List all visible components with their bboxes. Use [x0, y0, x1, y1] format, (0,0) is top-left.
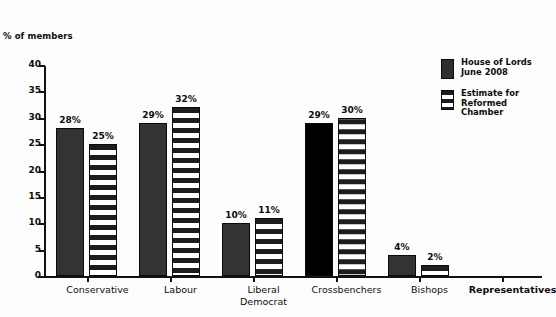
legend-item[interactable]: House of Lords June 2008 — [441, 58, 542, 82]
x-axis-tick — [87, 276, 89, 282]
y-axis-tick-label: 35 — [15, 85, 41, 95]
y-axis-tick-label: 10 — [15, 217, 41, 227]
bar-value-label: 10% — [225, 210, 247, 220]
x-axis-category-label-line: Democrat — [240, 296, 287, 308]
bar — [139, 123, 167, 276]
bar-value-label: 2% — [427, 252, 442, 262]
x-axis-category-label: Conservative — [66, 284, 128, 296]
x-axis-category-label: Representatives — [469, 284, 556, 296]
bar — [56, 128, 84, 276]
y-axis-tick-label: 0 — [15, 270, 41, 280]
bar-value-label: 30% — [341, 105, 363, 115]
y-axis-tick-label: 25 — [15, 138, 41, 148]
bar-value-label: 28% — [59, 115, 81, 125]
x-axis-tick — [419, 276, 421, 282]
x-axis-category-label-line: Crossbenchers — [312, 284, 382, 296]
bar-value-label: 29% — [308, 110, 330, 120]
bar-value-label: 11% — [258, 205, 280, 215]
x-axis-category-label-line: Conservative — [66, 284, 128, 296]
bar — [255, 218, 283, 276]
bar-value-label: 25% — [92, 131, 114, 141]
legend-item-label: House of Lords June 2008 — [461, 58, 542, 77]
bar — [172, 107, 200, 276]
y-axis-title: % of members — [3, 31, 73, 41]
bar-value-label: 29% — [142, 110, 164, 120]
bar — [338, 118, 366, 276]
bar — [222, 223, 250, 276]
x-axis-category-label-line: Liberal — [240, 284, 287, 296]
x-axis-tick — [502, 276, 504, 282]
x-axis-tick — [170, 276, 172, 282]
x-axis-line — [38, 276, 542, 278]
y-axis-tick-label: 20 — [15, 165, 41, 175]
y-axis-tick-label: 30 — [15, 112, 41, 122]
x-axis-category-label: Labour — [164, 284, 197, 296]
x-axis-category-label: Crossbenchers — [312, 284, 382, 296]
bar-value-label: 32% — [175, 94, 197, 104]
x-axis-category-label: LiberalDemocrat — [240, 284, 287, 308]
x-axis-category-label-line: Labour — [164, 284, 197, 296]
bar — [388, 255, 416, 276]
bar — [89, 144, 117, 276]
bar — [305, 123, 333, 276]
y-axis-tick-label: 5 — [15, 244, 41, 254]
y-axis-tick-label: 15 — [15, 191, 41, 201]
x-axis-tick — [336, 276, 338, 282]
x-axis-category-label: Bishops — [411, 284, 448, 296]
legend-item-label: Estimate for Reformed Chamber — [461, 89, 542, 118]
chart-legend: House of Lords June 2008Estimate for Ref… — [441, 58, 542, 125]
bar-value-label: 4% — [394, 242, 409, 252]
solid-dark-swatch — [441, 59, 454, 79]
x-axis-category-label-line: Representatives — [469, 284, 556, 296]
y-axis-tick-label: 40 — [15, 59, 41, 69]
striped-swatch — [441, 90, 454, 110]
legend-item[interactable]: Estimate for Reformed Chamber — [441, 89, 542, 118]
x-axis-category-label-line: Bishops — [411, 284, 448, 296]
bar — [421, 265, 449, 276]
x-axis-tick — [253, 276, 255, 282]
